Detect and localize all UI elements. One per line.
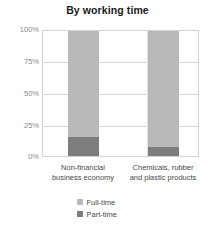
x-axis-label-line-1: Chemicals, rubber (113, 163, 213, 173)
legend-swatch-part-time-icon (77, 211, 83, 217)
y-axis-tick-100: 100% (0, 26, 39, 34)
legend-item-full-time[interactable]: Full-time (0, 196, 215, 208)
bar-segment-full-time[interactable] (148, 31, 179, 147)
bar-segment-full-time[interactable] (68, 31, 99, 137)
legend-label-full-time: Full-time (87, 198, 116, 207)
chart-title: By working time (0, 4, 215, 16)
x-axis-label-chemicals-rubber-plastic-products: Chemicals, rubber and plastic products (113, 163, 213, 183)
chart-container: By working time 100% 75% 50% 25% 0% Non-… (0, 0, 215, 231)
legend-swatch-full-time-icon (77, 199, 83, 205)
y-axis-tick-0: 0% (0, 153, 39, 161)
plot-area (42, 30, 199, 157)
legend-label-part-time: Part-time (87, 210, 117, 219)
bar-segment-part-time[interactable] (148, 147, 179, 156)
x-axis-label-line-2: and plastic products (113, 173, 213, 183)
legend-item-part-time[interactable]: Part-time (0, 208, 215, 220)
y-axis-tick-25: 25% (0, 122, 39, 130)
y-axis-tick-50: 50% (0, 90, 39, 98)
y-axis-tick-75: 75% (0, 58, 39, 66)
chart-legend: Full-time Part-time (0, 196, 215, 220)
bar-segment-part-time[interactable] (68, 137, 99, 156)
